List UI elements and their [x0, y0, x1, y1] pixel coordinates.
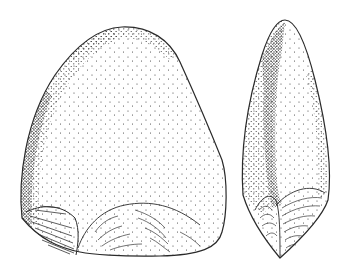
stone-tool-drawing	[0, 0, 353, 280]
profile-view	[230, 0, 350, 280]
illustration-canvas	[0, 0, 353, 280]
face-view	[0, 0, 240, 280]
